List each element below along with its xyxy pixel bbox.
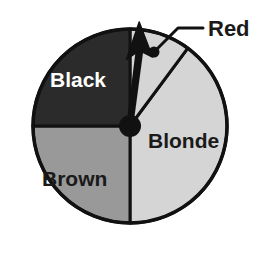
pie-chart-svg: Black Brown Blonde Red — [0, 0, 259, 256]
pie-label-black: Black — [50, 68, 106, 91]
spinner-pivot[interactable] — [119, 115, 141, 137]
pie-label-blonde: Blonde — [148, 129, 219, 152]
pie-label-brown: Brown — [42, 167, 107, 190]
pie-chart-figure: Black Brown Blonde Red — [0, 0, 259, 256]
pie-label-red: Red — [208, 16, 250, 41]
